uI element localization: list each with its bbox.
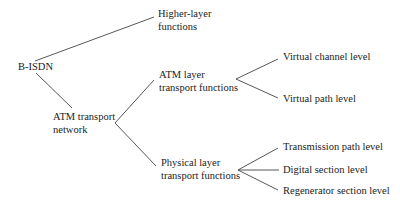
edge-phys-transmission: [238, 148, 278, 170]
node-label-line: ATM transport: [53, 110, 115, 123]
node-virtual-path-level: Virtual path level: [283, 92, 356, 105]
node-physical-layer-transport-functions: Physical layer transport functions: [161, 156, 240, 182]
node-regenerator-section-level: Regenerator section level: [283, 184, 390, 197]
node-higher-layer-functions: Higher-layer functions: [158, 7, 211, 33]
node-digital-section-level: Digital section level: [283, 163, 368, 176]
node-atm-layer-transport-functions: ATM layer transport functions: [159, 68, 238, 94]
edge-bisdn-higher: [35, 17, 154, 61]
node-label-line: transport functions: [159, 81, 238, 94]
node-virtual-channel-level: Virtual channel level: [283, 50, 370, 63]
node-label-line: functions: [158, 20, 211, 33]
node-label-line: transport functions: [161, 169, 240, 182]
node-transmission-path-level: Transmission path level: [283, 140, 383, 153]
node-atm-transport-network: ATM transport network: [53, 110, 115, 136]
edge-atmlayer-vp: [236, 79, 278, 98]
node-b-isdn: B-ISDN: [18, 60, 53, 73]
node-label-line: network: [53, 123, 115, 136]
edge-bisdn-atmnet: [36, 73, 72, 108]
edge-atmlayer-vc: [236, 59, 278, 79]
edge-phys-regenerator: [238, 170, 278, 190]
node-label-line: Higher-layer: [158, 7, 211, 20]
edge-atmnet-atmlayer: [115, 80, 154, 123]
b-isdn-hierarchy-diagram: Higher-layer functions B-ISDN ATM transp…: [0, 0, 400, 207]
node-label-line: ATM layer: [159, 68, 238, 81]
edge-atmnet-physlayer: [115, 123, 156, 166]
node-label-line: Physical layer: [161, 156, 240, 169]
